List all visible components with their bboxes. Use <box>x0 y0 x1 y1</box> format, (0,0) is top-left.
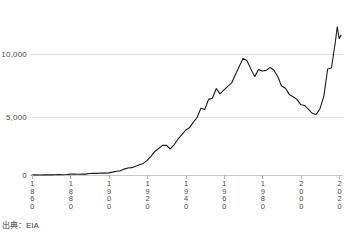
xtick-label-1980: 1 9 8 0 <box>258 180 267 210</box>
series-line-us-crude-oil-production <box>0 0 344 234</box>
xtick-label-1880: 1 8 8 0 <box>66 180 75 210</box>
xtick-label-1860: 1 8 6 0 <box>28 180 37 210</box>
chart-container: 10,000 5,000 0 1 8 6 01 8 8 01 9 0 01 9 … <box>0 0 344 234</box>
xtick-label-2020: 2 0 2 0 <box>335 180 344 210</box>
xtick-label-2000: 2 0 0 0 <box>297 180 306 210</box>
xtick-label-1960: 1 9 6 0 <box>220 180 229 210</box>
source-note: 出典：EIA <box>2 219 39 230</box>
xtick-label-1940: 1 9 4 0 <box>182 180 191 210</box>
xtick-label-1900: 1 9 0 0 <box>105 180 114 210</box>
xtick-label-1920: 1 9 2 0 <box>143 180 152 210</box>
